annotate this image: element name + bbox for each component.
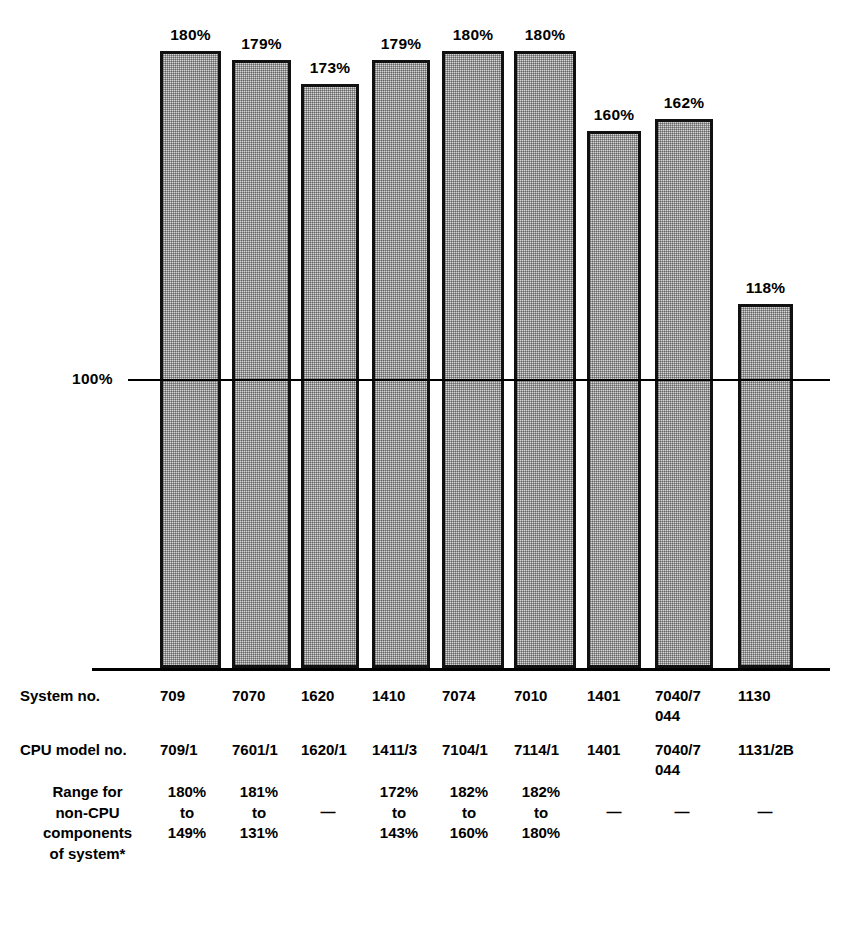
bar-7070: [232, 60, 291, 668]
bar-7040-7044: [655, 119, 713, 668]
bar-value-label: 180%: [443, 26, 503, 44]
table-cell: 7601/1: [232, 740, 312, 760]
bar-value-label: 180%: [161, 26, 221, 44]
table-row-label: System no.: [20, 686, 100, 705]
bar-709: [160, 51, 221, 668]
bar-value-label: 118%: [736, 279, 796, 297]
range-cell: 180% to 149%: [156, 782, 218, 844]
reference-line-label: 100%: [72, 370, 113, 388]
range-cell: 172% to 143%: [368, 782, 430, 844]
bar-value-label: 179%: [371, 35, 431, 53]
bar-1401: [587, 131, 641, 668]
table-cell: 1130: [738, 686, 818, 706]
table-cell: 7070: [232, 686, 312, 706]
range-cell-empty: —: [734, 803, 796, 820]
range-cell-empty: —: [583, 803, 645, 820]
bar-value-label: 173%: [300, 59, 360, 77]
range-row-label: Range for non-CPU components of system*: [20, 782, 155, 864]
bar-1620: [301, 84, 359, 668]
range-cell: 182% to 160%: [438, 782, 500, 844]
data-table: System no.709707016201410707470101401704…: [0, 672, 866, 929]
table-cell: 1620: [301, 686, 381, 706]
table-cell: 1620/1: [301, 740, 381, 760]
bar-value-label: 180%: [515, 26, 575, 44]
table-cell: 7074: [442, 686, 522, 706]
table-cell: 7114/1: [514, 740, 594, 760]
table-cell: 1410: [372, 686, 452, 706]
bar-1410: [372, 60, 430, 668]
bar-1130: [738, 304, 793, 668]
table-cell: 1411/3: [372, 740, 452, 760]
reference-line-100-percent: [128, 379, 830, 381]
bar-7010: [514, 51, 576, 668]
bar-7074: [442, 51, 504, 668]
table-cell: 1131/2B: [738, 740, 818, 760]
x-axis-baseline: [92, 668, 830, 671]
range-cell: 182% to 180%: [510, 782, 572, 844]
table-row-label: CPU model no.: [20, 740, 127, 759]
bar-value-label: 160%: [584, 106, 644, 124]
bar-chart-plot-area: 180%179%173%179%180%180%160%162%118% 100…: [0, 0, 866, 672]
table-cell: 709: [160, 686, 240, 706]
table-cell: 7104/1: [442, 740, 522, 760]
range-cell-empty: —: [297, 803, 359, 820]
range-cell: 181% to 131%: [228, 782, 290, 844]
table-cell: 7010: [514, 686, 594, 706]
table-cell: 7040/7 044: [655, 686, 735, 726]
bar-value-label: 179%: [232, 35, 292, 53]
range-cell-empty: —: [651, 803, 713, 820]
bar-value-label: 162%: [654, 94, 714, 112]
table-cell: 709/1: [160, 740, 240, 760]
table-cell: 7040/7 044: [655, 740, 735, 780]
chart-page: 180%179%173%179%180%180%160%162%118% 100…: [0, 0, 866, 929]
